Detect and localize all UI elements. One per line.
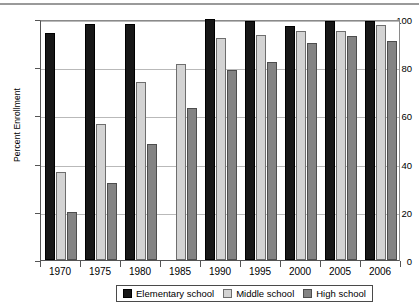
bar-middle-2006[interactable]	[376, 25, 386, 260]
bar-high-2005[interactable]	[347, 36, 357, 260]
x-tick-mark-4	[200, 261, 201, 267]
chart-page: Percent Enrollment 020406080100 19701975…	[0, 0, 419, 306]
bar-middle-1985[interactable]	[176, 64, 186, 260]
x-tick-mark-8	[360, 261, 361, 267]
bar-group-2000	[281, 21, 321, 260]
legend-item-elementary[interactable]: Elementary school	[123, 288, 214, 299]
bar-group-2006	[361, 21, 401, 260]
legend-swatch-elementary-icon	[123, 289, 132, 298]
bar-elementary-1975[interactable]	[85, 24, 95, 260]
bar-middle-2005[interactable]	[336, 31, 346, 260]
bar-group-1985	[161, 21, 201, 260]
legend-swatch-high-icon	[303, 289, 312, 298]
bar-group-2005	[321, 21, 361, 260]
bar-middle-1975[interactable]	[96, 124, 106, 260]
bar-high-1985[interactable]	[187, 108, 197, 260]
legend-swatch-middle-icon	[223, 289, 232, 298]
top-divider	[0, 3, 419, 5]
legend-label: Elementary school	[136, 288, 214, 299]
bar-high-1970[interactable]	[67, 212, 77, 260]
legend-label: Middle school	[236, 288, 294, 299]
bar-high-1975[interactable]	[107, 183, 117, 260]
bar-high-1980[interactable]	[147, 144, 157, 260]
bar-group-1990	[201, 21, 241, 260]
chart-legend: Elementary schoolMiddle schoolHigh schoo…	[116, 285, 373, 302]
x-tick-label-2006: 2006	[357, 266, 403, 277]
x-tick-mark-2	[120, 261, 121, 267]
bar-middle-1995[interactable]	[256, 35, 266, 260]
x-tick-mark-5	[240, 261, 241, 267]
bar-elementary-2006[interactable]	[365, 21, 375, 260]
bar-middle-1980[interactable]	[136, 82, 146, 260]
bar-elementary-2000[interactable]	[285, 26, 295, 260]
bar-elementary-1995[interactable]	[245, 21, 255, 260]
bar-group-1995	[241, 21, 281, 260]
bar-elementary-2005[interactable]	[325, 21, 335, 260]
bar-high-1995[interactable]	[267, 62, 277, 260]
x-tick-mark-9	[400, 261, 401, 267]
plot-area	[40, 20, 400, 261]
bar-elementary-1970[interactable]	[45, 33, 55, 260]
x-tick-mark-6	[280, 261, 281, 267]
bar-middle-2000[interactable]	[296, 31, 306, 260]
bar-high-2006[interactable]	[387, 41, 397, 260]
bar-group-1980	[121, 21, 161, 260]
bar-middle-1970[interactable]	[56, 172, 66, 260]
legend-label: High school	[316, 288, 366, 299]
x-tick-mark-3	[160, 261, 161, 267]
bar-groups	[41, 21, 399, 260]
bar-group-1975	[81, 21, 121, 260]
legend-item-high[interactable]: High school	[303, 288, 366, 299]
bar-elementary-1980[interactable]	[125, 24, 135, 260]
x-tick-mark-7	[320, 261, 321, 267]
x-tick-mark-1	[80, 261, 81, 267]
x-tick-mark-0	[40, 261, 41, 267]
legend-item-middle[interactable]: Middle school	[223, 288, 294, 299]
bar-elementary-1990[interactable]	[205, 19, 215, 260]
y-axis-title: Percent Enrollment	[12, 50, 22, 200]
bar-group-1970	[41, 21, 81, 260]
bar-high-2000[interactable]	[307, 43, 317, 260]
bar-middle-1990[interactable]	[216, 38, 226, 260]
bar-high-1990[interactable]	[227, 70, 237, 260]
